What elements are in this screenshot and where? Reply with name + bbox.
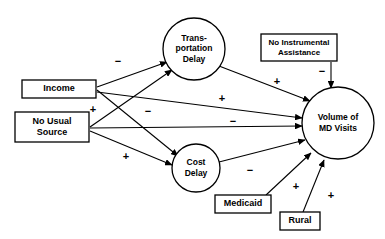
diagram-svg: Trans-portationDelayIncomeNo UsualSource… <box>0 0 385 239</box>
edge-sign-cost-delay-to-volume: − <box>247 164 253 176</box>
node-label-no-instrumental-assistance: Assistance <box>278 48 321 57</box>
node-label-income: Income <box>43 83 75 93</box>
node-label-no-instrumental-assistance: No Instrumental <box>269 38 330 47</box>
node-label-no-usual-source: Source <box>37 127 68 137</box>
nodes-layer: Trans-portationDelayIncomeNo UsualSource… <box>15 18 374 230</box>
node-label-transportation-delay: portation <box>176 43 213 53</box>
edge-line-income-to-volume <box>97 92 302 118</box>
node-label-transportation-delay: Trans- <box>181 33 207 43</box>
path-diagram-canvas: Trans-portationDelayIncomeNo UsualSource… <box>0 0 385 239</box>
node-medicaid[interactable]: Medicaid <box>215 195 271 213</box>
edge-sign-income-to-cost-delay: − <box>145 105 151 117</box>
edge-sign-no-usual-source-to-transportation-delay: + <box>90 103 96 115</box>
edge-sign-no-usual-source-to-cost-delay: + <box>123 150 129 162</box>
edge-sign-medicaid-to-volume: + <box>293 180 299 192</box>
node-label-cost-delay: Cost <box>187 157 206 167</box>
edge-line-medicaid-to-volume <box>266 153 311 195</box>
node-label-medicaid: Medicaid <box>224 198 263 208</box>
node-label-no-usual-source: No Usual <box>32 116 71 126</box>
node-volume-of-md-visits[interactable]: Volume ofMD Visits <box>302 87 374 159</box>
node-rural[interactable]: Rural <box>280 212 320 230</box>
edge-income-to-volume <box>97 92 302 118</box>
edge-sign-income-to-volume: + <box>219 92 225 104</box>
edge-transportation-delay-to-volume <box>219 66 310 101</box>
edge-sign-rural-to-volume: + <box>328 189 334 201</box>
edge-line-transportation-delay-to-volume <box>219 66 310 101</box>
edge-cost-delay-to-volume <box>219 140 305 162</box>
node-label-transportation-delay: Delay <box>183 54 206 64</box>
edge-income-to-cost-delay <box>97 90 178 156</box>
edge-medicaid-to-volume <box>266 153 311 195</box>
node-income[interactable]: Income <box>22 80 96 98</box>
edge-no-usual-source-to-transportation-delay <box>90 70 172 127</box>
edge-income-to-transportation-delay <box>97 62 167 87</box>
node-label-volume-of-md-visits: Volume of <box>318 112 359 122</box>
edge-line-income-to-transportation-delay <box>97 62 167 87</box>
edge-line-rural-to-volume <box>303 160 324 212</box>
node-label-volume-of-md-visits: MD Visits <box>319 123 357 133</box>
node-transportation-delay[interactable]: Trans-portationDelay <box>163 18 225 80</box>
edge-line-no-usual-source-to-transportation-delay <box>90 70 172 127</box>
node-no-usual-source[interactable]: No UsualSource <box>15 112 89 142</box>
edge-no-usual-source-to-volume <box>90 126 302 128</box>
node-no-instrumental-assistance[interactable]: No InstrumentalAssistance <box>261 34 337 61</box>
node-cost-delay[interactable]: CostDelay <box>172 144 220 192</box>
edge-sign-income-to-transportation-delay: − <box>115 55 121 67</box>
edge-rural-to-volume <box>303 160 324 212</box>
edge-line-cost-delay-to-volume <box>219 140 305 162</box>
node-label-cost-delay: Delay <box>185 168 208 178</box>
edge-sign-no-instrumental-assistance-to-volume: − <box>319 65 325 77</box>
edge-no-usual-source-to-cost-delay <box>90 131 172 165</box>
edge-sign-transportation-delay-to-volume: + <box>274 75 280 87</box>
node-label-rural: Rural <box>288 215 311 225</box>
edge-line-no-usual-source-to-cost-delay <box>90 131 172 165</box>
edge-sign-no-usual-source-to-volume: − <box>230 115 236 127</box>
edge-line-no-usual-source-to-volume <box>90 126 302 128</box>
edge-line-income-to-cost-delay <box>97 90 178 156</box>
